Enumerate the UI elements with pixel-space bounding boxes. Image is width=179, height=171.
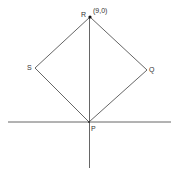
point-p-dot	[88, 121, 90, 123]
label-r-coordinate: (9,0)	[93, 7, 107, 15]
label-q: Q	[149, 66, 155, 74]
label-r: R	[81, 11, 86, 18]
label-s: S	[27, 64, 32, 71]
label-p: P	[91, 125, 96, 132]
point-r-dot	[88, 15, 91, 18]
quadrilateral-prsq	[35, 17, 147, 122]
geometry-diagram: R (9,0) S Q P	[0, 0, 179, 171]
